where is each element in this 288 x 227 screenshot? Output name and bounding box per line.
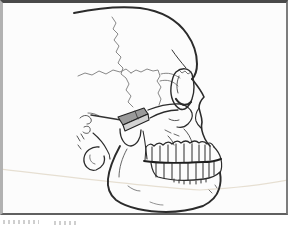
skull-illustration [0,0,288,215]
maxilla-mark-1 [165,130,171,133]
incisor-front-edge [214,147,221,159]
teeth-lower-dividers [156,161,214,180]
teeth-upper-gumline [146,141,214,147]
caption-fragment-cutoff-2 [54,221,77,225]
lower-front-edge [220,159,222,173]
ear-tick-3 [78,145,81,149]
ear-curl-1 [80,115,91,124]
teeth-upper-dividers [152,144,210,162]
implant-pointer [91,115,121,120]
figure-frame [0,0,288,215]
caption-fragment-cutoff-1 [3,220,39,224]
suture-vertical [112,17,133,107]
suture-right-branch [131,69,161,105]
temporal-ridge [172,50,186,68]
maxilla-mark-2 [174,134,179,136]
teeth-lower-gumline [151,163,220,180]
sphenoid-curve [161,73,180,78]
jaw-inner-mark-2 [150,202,163,205]
jaw-inner-mark-1 [128,186,140,191]
temporal-fossa-curve [160,80,178,86]
ear-hook-inner [90,155,95,164]
zygomatic-arch-lower [150,110,178,118]
chin-mark-2 [215,185,217,188]
ear-tick-1 [77,136,80,141]
crease-line [0,169,288,190]
orbit-inner-line [177,76,179,93]
infraorbital-stroke [169,119,179,121]
nasal-profile [192,79,210,146]
chin-mark-1 [209,190,212,193]
suture-left-branch [78,69,131,76]
zygoma-edge [177,104,192,127]
ramus-inner-line [119,149,127,177]
ear-tick-2 [81,134,84,139]
condyle-dome [120,129,141,146]
caption-strip [0,215,288,227]
mastoid-edge [93,133,110,159]
cranium-outline [74,7,197,79]
ear-hook [84,147,105,170]
ear-curl-2 [83,126,90,133]
